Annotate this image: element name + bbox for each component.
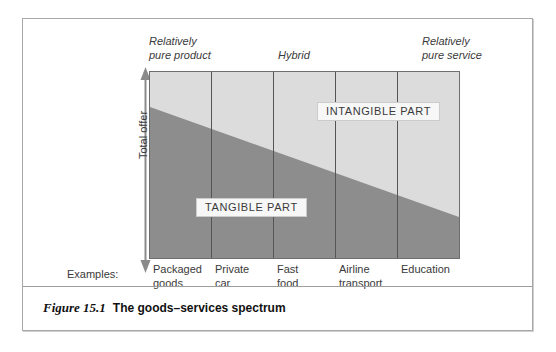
figure-caption-title: The goods–services spectrum bbox=[113, 301, 286, 315]
column-divider-2 bbox=[273, 72, 274, 258]
spectrum-heading-hybrid: Hybrid bbox=[278, 49, 310, 63]
column-divider-3 bbox=[335, 72, 336, 258]
caption-divider bbox=[23, 286, 532, 287]
column-divider-1 bbox=[211, 72, 212, 258]
spectrum-plot: INTANGIBLE PART TANGIBLE PART bbox=[149, 71, 460, 259]
figure-frame: Relatively pure product Hybrid Relativel… bbox=[22, 18, 533, 331]
spectrum-heading-pure-service: Relatively pure service bbox=[422, 35, 482, 63]
tangible-part-label: TANGIBLE PART bbox=[196, 198, 307, 217]
figure-caption-number: Figure 15.1 bbox=[43, 300, 106, 315]
y-axis-label: Total offer bbox=[137, 90, 149, 180]
figure-caption: Figure 15.1The goods–services spectrum bbox=[43, 300, 286, 316]
spectrum-heading-pure-product: Relatively pure product bbox=[149, 35, 211, 63]
intangible-part-label: INTANGIBLE PART bbox=[317, 102, 440, 121]
examples-caption: Examples: bbox=[67, 268, 118, 280]
column-divider-4 bbox=[397, 72, 398, 258]
tangible-part-area bbox=[150, 72, 459, 258]
example-label-education: Education bbox=[401, 262, 450, 276]
